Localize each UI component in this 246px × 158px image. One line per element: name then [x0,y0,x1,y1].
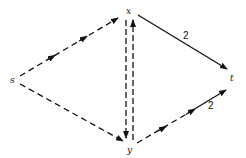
graph-diagram: 2 2 s x y t [0,0,246,158]
node-y-label: y [126,145,133,155]
weight-label-x-t: 2 [183,30,189,41]
node-t-label: t [230,73,234,83]
edge-s-x [20,18,118,76]
edge-y-t: 2 [137,90,226,143]
node-x-label: x [126,6,131,16]
edge-x-t: 2 [138,15,227,69]
weight-label-y-t: 2 [208,100,214,111]
edge-s-y [20,84,123,141]
node-s-label: s [10,75,15,85]
